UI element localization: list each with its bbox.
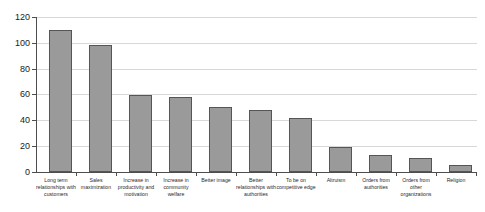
y-tick-label: 80 — [2, 65, 30, 74]
y-tick-label: 40 — [2, 116, 30, 125]
x-tick-mark — [156, 172, 157, 176]
x-axis-line — [36, 172, 477, 173]
x-tick-mark — [116, 172, 117, 176]
x-category-label: Altruism — [316, 177, 356, 184]
bar — [129, 95, 152, 172]
x-tick-mark — [396, 172, 397, 176]
x-category-label: Better relationships with authorities — [236, 177, 276, 198]
x-category-label: Orders from authorities — [356, 177, 396, 191]
x-tick-mark — [316, 172, 317, 176]
x-category-label: Increase in community welfare — [156, 177, 196, 198]
bar — [289, 118, 312, 172]
y-tick-label: 0 — [2, 168, 30, 177]
x-category-label: Better image — [196, 177, 236, 184]
x-category-label: Religion — [436, 177, 476, 184]
bar — [209, 107, 232, 172]
x-category-label: Long term relationships with customers — [36, 177, 76, 198]
bar — [169, 97, 192, 172]
bar — [49, 30, 72, 172]
y-tick-label: 20 — [2, 142, 30, 151]
bar-chart: 120 100 80 60 40 20 0 — [0, 0, 485, 212]
bar — [369, 155, 392, 172]
y-axis-line — [36, 17, 37, 173]
x-tick-mark — [236, 172, 237, 176]
bar — [449, 165, 472, 172]
y-tick-label: 60 — [2, 90, 30, 99]
x-tick-mark — [76, 172, 77, 176]
bar — [89, 45, 112, 172]
gridline — [36, 17, 477, 18]
x-tick-mark — [276, 172, 277, 176]
bar — [409, 158, 432, 172]
gridline — [36, 43, 477, 44]
x-tick-mark — [476, 172, 477, 176]
y-axis-labels: 120 100 80 60 40 20 0 — [0, 0, 30, 212]
x-category-label: Orders from other organizations — [396, 177, 436, 198]
x-category-label: Increase in productivity and motivation — [116, 177, 156, 198]
x-tick-mark — [196, 172, 197, 176]
y-tick-label: 120 — [2, 13, 30, 22]
x-tick-mark — [356, 172, 357, 176]
x-category-label: To be on competitive edge — [276, 177, 316, 191]
bar — [329, 147, 352, 172]
x-category-label: Sales maximization — [76, 177, 116, 191]
bar — [249, 110, 272, 172]
x-tick-mark — [436, 172, 437, 176]
y-tick-label: 100 — [2, 39, 30, 48]
plot-area — [36, 17, 477, 172]
